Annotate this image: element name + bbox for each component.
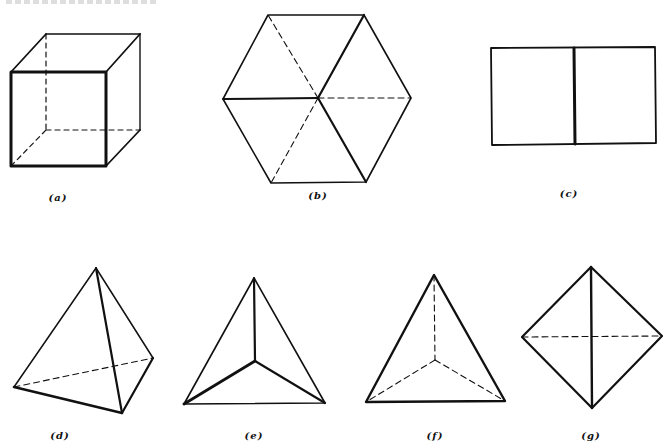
- panel-g-label: (g): [581, 430, 600, 441]
- panel-d-tetrahedron: [14, 268, 153, 413]
- panel-e-triangle-solid-center: [184, 278, 325, 404]
- panel-f-label: (f): [427, 430, 444, 441]
- panel-a-cube: [11, 34, 140, 166]
- panel-a-label: (a): [49, 192, 68, 203]
- panel-e-label: (e): [245, 430, 264, 441]
- panel-b-hexagon: [223, 15, 411, 183]
- polyhedra-figure: [0, 0, 668, 444]
- panel-c-label: (c): [560, 188, 579, 199]
- panel-f-triangle-dashed-center: [366, 275, 505, 402]
- panel-g-diamond: [522, 267, 662, 408]
- panel-b-label: (b): [308, 190, 327, 201]
- panel-d-label: (d): [50, 430, 69, 441]
- panel-c-rectangle: [491, 47, 656, 145]
